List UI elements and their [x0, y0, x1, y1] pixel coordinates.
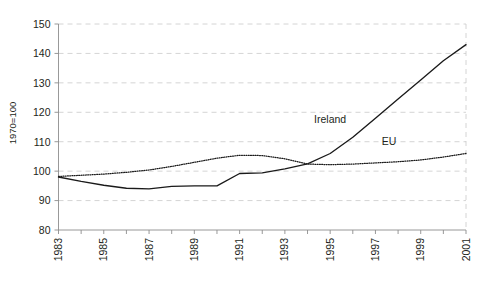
series-label-group: IrelandEU — [314, 113, 396, 148]
y-tick-group: 8090100110120130140150 — [33, 18, 59, 236]
x-tick-label-1995: 1995 — [324, 238, 336, 262]
x-tick-label-1991: 1991 — [233, 238, 245, 262]
line-chart: 8090100110120130140150 19831985198719891… — [0, 0, 486, 291]
chart-canvas: 8090100110120130140150 19831985198719891… — [0, 0, 486, 291]
y-tick-label-150: 150 — [33, 18, 51, 30]
x-tick-group: 1983198519871989199119931995199719992001 — [52, 230, 472, 261]
series-paths-group — [59, 45, 467, 189]
y-tick-label-110: 110 — [34, 136, 51, 148]
gridlines-group — [59, 24, 467, 230]
y-tick-label-80: 80 — [39, 224, 51, 236]
x-tick-label-1989: 1989 — [188, 238, 200, 262]
y-tick-label-130: 130 — [33, 77, 51, 89]
x-tick-label-2001: 2001 — [460, 238, 472, 262]
series-line-ireland — [59, 45, 467, 189]
x-tick-label-1997: 1997 — [369, 238, 381, 262]
x-tick-label-1983: 1983 — [52, 238, 64, 262]
y-tick-label-120: 120 — [33, 106, 51, 118]
axes-group — [59, 24, 467, 230]
y-tick-label-90: 90 — [39, 194, 51, 206]
y-tick-label-140: 140 — [33, 47, 51, 59]
series-label-ireland: Ireland — [314, 113, 346, 125]
x-tick-label-1987: 1987 — [143, 238, 155, 262]
x-tick-label-1993: 1993 — [278, 238, 290, 262]
x-tick-label-1999: 1999 — [414, 238, 426, 262]
y-tick-label-100: 100 — [33, 165, 51, 177]
x-tick-label-1985: 1985 — [97, 238, 109, 262]
series-label-eu: EU — [382, 135, 397, 147]
y-axis-title: 1970=100 — [7, 102, 18, 145]
